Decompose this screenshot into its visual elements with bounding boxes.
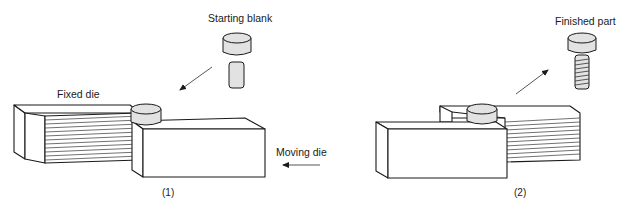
thread-rolling-diagram: Starting blank Fixed die — [0, 0, 627, 209]
moving-die-panel-2 — [376, 122, 507, 178]
finished-part-label: Finished part — [555, 15, 616, 27]
exit-arrow — [516, 70, 548, 94]
panel-1-caption: (1) — [162, 187, 174, 198]
fixed-die — [14, 105, 140, 163]
panel-2: Finished part — [376, 15, 616, 198]
blank-between-dies — [131, 104, 161, 125]
finished-part — [568, 33, 596, 89]
panel-2-caption: (2) — [514, 187, 526, 198]
moving-die-label: Moving die — [276, 146, 327, 158]
part-between-dies — [467, 104, 497, 124]
starting-blank-part — [223, 33, 251, 88]
panel-1: Starting blank Fixed die — [14, 12, 327, 198]
starting-blank-label: Starting blank — [208, 12, 273, 24]
insert-arrow — [180, 67, 212, 90]
fixed-die-label: Fixed die — [57, 88, 100, 100]
moving-die — [132, 118, 265, 177]
